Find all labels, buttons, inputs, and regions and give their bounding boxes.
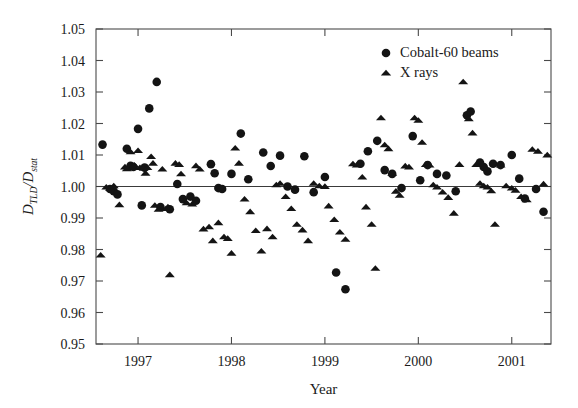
legend-label-0: Cobalt-60 beams bbox=[400, 44, 499, 60]
data-point-triangle-46 bbox=[281, 193, 291, 199]
data-point-triangle-56 bbox=[335, 229, 345, 235]
data-point-triangle-42 bbox=[262, 226, 272, 232]
data-point-circle-14 bbox=[173, 180, 182, 189]
legend-marker-triangle bbox=[381, 70, 391, 76]
y-tick-label-0.97: 0.97 bbox=[61, 274, 86, 289]
data-point-circle-46 bbox=[451, 187, 460, 196]
y-tick-label-0.96: 0.96 bbox=[61, 306, 86, 321]
data-point-triangle-83 bbox=[458, 79, 468, 85]
data-point-triangle-36 bbox=[230, 145, 240, 151]
data-point-triangle-47 bbox=[286, 205, 296, 211]
data-point-triangle-24 bbox=[176, 171, 186, 177]
data-point-triangle-48 bbox=[292, 221, 302, 227]
data-point-triangle-80 bbox=[443, 194, 453, 200]
data-point-triangle-32 bbox=[213, 220, 223, 226]
data-point-circle-44 bbox=[433, 170, 442, 179]
data-point-triangle-61 bbox=[361, 204, 371, 210]
x-axis-title: Year bbox=[310, 381, 338, 397]
legend-label-1: X rays bbox=[400, 64, 439, 80]
x-tick-label-1998: 1998 bbox=[217, 354, 245, 369]
data-point-circle-0 bbox=[98, 140, 107, 149]
data-point-circle-3 bbox=[113, 190, 122, 199]
data-point-triangle-41 bbox=[256, 248, 266, 254]
y-tick-label-0.95: 0.95 bbox=[61, 337, 86, 352]
data-point-triangle-18 bbox=[157, 166, 167, 172]
y-tick-label-1.04: 1.04 bbox=[61, 54, 86, 69]
figure-container: 0.950.960.970.980.991.001.011.021.031.04… bbox=[0, 0, 578, 408]
y-tick-label-0.99: 0.99 bbox=[61, 211, 86, 226]
data-point-triangle-15 bbox=[148, 160, 158, 166]
data-point-triangle-14 bbox=[146, 153, 156, 159]
data-point-triangle-57 bbox=[340, 236, 350, 242]
data-point-triangle-49 bbox=[297, 227, 307, 233]
data-point-triangle-38 bbox=[240, 196, 250, 202]
y-tick-label-1.05: 1.05 bbox=[61, 22, 86, 37]
y-tick-label-1.01: 1.01 bbox=[61, 148, 86, 163]
data-point-circle-32 bbox=[321, 173, 330, 182]
data-point-circle-58 bbox=[539, 207, 548, 216]
legend-entry-1: X rays bbox=[381, 64, 439, 80]
data-point-triangle-91 bbox=[490, 221, 500, 227]
y-tick-label-1.03: 1.03 bbox=[61, 85, 86, 100]
data-point-circle-41 bbox=[408, 132, 417, 141]
data-point-circle-28 bbox=[283, 182, 292, 191]
data-point-circle-18 bbox=[207, 160, 216, 169]
x-tick-label-2001: 2001 bbox=[498, 354, 526, 369]
data-point-triangle-82 bbox=[454, 161, 464, 167]
data-point-circle-42 bbox=[416, 176, 425, 185]
data-point-circle-23 bbox=[237, 129, 246, 138]
legend-marker-circle bbox=[382, 49, 391, 58]
data-point-triangle-30 bbox=[204, 224, 214, 230]
data-point-triangle-62 bbox=[367, 221, 377, 227]
data-point-triangle-63 bbox=[370, 265, 380, 271]
data-point-triangle-37 bbox=[234, 160, 244, 166]
data-point-circle-30 bbox=[300, 152, 309, 161]
x-tick-label-1997: 1997 bbox=[124, 354, 152, 369]
data-point-triangle-31 bbox=[208, 238, 218, 244]
data-point-circle-54 bbox=[507, 151, 516, 160]
data-point-circle-24 bbox=[244, 175, 253, 184]
data-point-triangle-4 bbox=[114, 202, 124, 208]
data-point-circle-8 bbox=[137, 201, 146, 210]
data-point-triangle-51 bbox=[309, 180, 319, 186]
data-point-triangle-0 bbox=[96, 252, 106, 258]
data-point-circle-26 bbox=[266, 162, 275, 171]
data-point-triangle-21 bbox=[165, 272, 175, 278]
data-point-circle-10 bbox=[145, 104, 154, 113]
data-point-triangle-50 bbox=[303, 238, 313, 244]
data-point-triangle-40 bbox=[251, 227, 261, 233]
data-point-triangle-100 bbox=[539, 181, 549, 187]
y-tick-label-1.02: 1.02 bbox=[61, 117, 86, 132]
data-point-circle-29 bbox=[291, 185, 300, 194]
data-point-triangle-60 bbox=[357, 174, 367, 180]
data-point-circle-36 bbox=[364, 147, 373, 156]
data-point-circle-27 bbox=[276, 151, 285, 160]
data-point-triangle-74 bbox=[417, 139, 427, 145]
data-point-circle-38 bbox=[380, 166, 389, 175]
data-point-circle-45 bbox=[442, 171, 451, 180]
data-point-triangle-43 bbox=[268, 234, 278, 240]
data-point-circle-37 bbox=[373, 137, 382, 146]
data-point-circle-21 bbox=[218, 185, 227, 194]
data-point-circle-55 bbox=[515, 174, 524, 183]
legend-entry-0: Cobalt-60 beams bbox=[382, 44, 499, 60]
data-point-triangle-39 bbox=[245, 209, 255, 215]
y-tick-label-1.00: 1.00 bbox=[61, 180, 86, 195]
y-tick-label-0.98: 0.98 bbox=[61, 243, 86, 258]
data-point-triangle-9 bbox=[133, 147, 143, 153]
data-point-triangle-85 bbox=[468, 130, 478, 136]
data-point-circle-34 bbox=[341, 285, 350, 294]
data-point-circle-19 bbox=[210, 169, 219, 178]
data-point-circle-48 bbox=[466, 107, 475, 116]
data-point-triangle-64 bbox=[376, 115, 386, 121]
data-point-circle-11 bbox=[152, 78, 161, 87]
data-point-triangle-81 bbox=[449, 210, 459, 216]
data-point-triangle-55 bbox=[329, 216, 339, 222]
legend: Cobalt-60 beamsX rays bbox=[381, 44, 499, 80]
scatter-plot: 0.950.960.970.980.991.001.011.021.031.04… bbox=[0, 0, 578, 408]
data-point-circle-31 bbox=[309, 188, 318, 197]
y-axis-title: DTLD/Dstat bbox=[20, 158, 39, 216]
data-point-circle-25 bbox=[259, 148, 268, 157]
y-axis-title-text: DTLD/Dstat bbox=[20, 158, 39, 216]
data-point-circle-52 bbox=[489, 160, 498, 169]
